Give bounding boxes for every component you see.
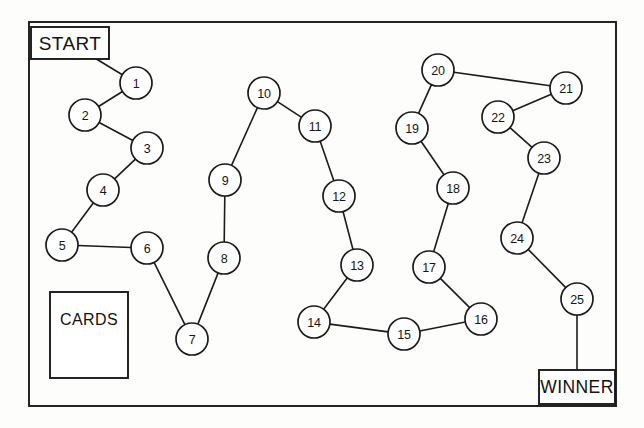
path-segment bbox=[522, 173, 539, 223]
board-space-3[interactable]: 3 bbox=[131, 132, 163, 164]
path-segment bbox=[72, 203, 94, 232]
space-number: 18 bbox=[446, 182, 460, 196]
path-segment bbox=[510, 128, 532, 148]
space-number: 2 bbox=[82, 109, 89, 123]
space-number: 1 bbox=[133, 77, 140, 91]
cards-panel[interactable]: CARDS bbox=[50, 292, 128, 378]
board-space-23[interactable]: 23 bbox=[528, 142, 560, 174]
space-number: 5 bbox=[59, 239, 66, 253]
board-space-8[interactable]: 8 bbox=[208, 242, 240, 274]
board-space-25[interactable]: 25 bbox=[561, 283, 593, 315]
path-segment bbox=[419, 85, 432, 114]
board-space-18[interactable]: 18 bbox=[437, 172, 469, 204]
start-panel-label: START bbox=[39, 33, 102, 54]
board-space-21[interactable]: 21 bbox=[550, 72, 582, 104]
board-space-1[interactable]: 1 bbox=[120, 67, 152, 99]
path-segment bbox=[343, 211, 353, 249]
winner-panel[interactable]: WINNER bbox=[539, 370, 615, 404]
path-segment bbox=[320, 141, 334, 181]
path-segment bbox=[198, 273, 218, 324]
space-number: 16 bbox=[474, 313, 488, 327]
path-segment bbox=[154, 262, 185, 324]
board-space-24[interactable]: 24 bbox=[501, 222, 533, 254]
space-number: 21 bbox=[559, 82, 573, 96]
space-number: 10 bbox=[257, 87, 271, 101]
space-number: 9 bbox=[222, 174, 229, 188]
board-canvas: STARTWINNERCARDS 12345678910111213141516… bbox=[0, 0, 644, 428]
board-space-22[interactable]: 22 bbox=[482, 101, 514, 133]
space-number: 7 bbox=[189, 333, 196, 347]
board-space-6[interactable]: 6 bbox=[131, 232, 163, 264]
path-segment bbox=[528, 249, 566, 287]
space-number: 19 bbox=[405, 122, 419, 136]
path-segment bbox=[99, 92, 123, 107]
board-space-20[interactable]: 20 bbox=[422, 54, 454, 86]
path-segment bbox=[224, 196, 225, 242]
space-number: 23 bbox=[537, 152, 551, 166]
space-number: 20 bbox=[431, 64, 445, 78]
path-segment bbox=[440, 278, 469, 307]
board-space-11[interactable]: 11 bbox=[299, 110, 331, 142]
space-number: 13 bbox=[350, 259, 364, 273]
space-number: 12 bbox=[332, 190, 346, 204]
board-space-10[interactable]: 10 bbox=[248, 77, 280, 109]
board-space-2[interactable]: 2 bbox=[69, 99, 101, 131]
board-space-7[interactable]: 7 bbox=[176, 323, 208, 355]
space-number: 3 bbox=[144, 142, 151, 156]
board-space-17[interactable]: 17 bbox=[413, 251, 445, 283]
path-segment bbox=[513, 94, 552, 110]
space-number: 8 bbox=[221, 252, 228, 266]
path-segment bbox=[434, 203, 449, 251]
board-space-14[interactable]: 14 bbox=[298, 306, 330, 338]
path-segment bbox=[420, 322, 466, 331]
board-panels: STARTWINNERCARDS bbox=[31, 27, 615, 404]
path-segment bbox=[78, 246, 131, 248]
path-segment bbox=[96, 59, 122, 75]
board-space-15[interactable]: 15 bbox=[388, 318, 420, 350]
start-panel[interactable]: START bbox=[31, 27, 109, 59]
board-space-13[interactable]: 13 bbox=[341, 249, 373, 281]
board-space-5[interactable]: 5 bbox=[46, 229, 78, 261]
space-number: 25 bbox=[570, 293, 584, 307]
game-board: STARTWINNERCARDS 12345678910111213141516… bbox=[0, 0, 644, 428]
winner-panel-label: WINNER bbox=[540, 377, 613, 397]
board-space-9[interactable]: 9 bbox=[209, 164, 241, 196]
cards-panel-label: CARDS bbox=[60, 311, 118, 328]
path-segment bbox=[277, 102, 301, 118]
space-number: 6 bbox=[144, 242, 151, 256]
path-segment bbox=[421, 141, 444, 175]
board-space-16[interactable]: 16 bbox=[465, 303, 497, 335]
board-space-12[interactable]: 12 bbox=[323, 180, 355, 212]
space-number: 15 bbox=[397, 328, 411, 342]
path-segment bbox=[330, 324, 388, 332]
cards-panel-box bbox=[50, 292, 128, 378]
path-segment bbox=[454, 72, 550, 86]
space-number: 4 bbox=[100, 184, 107, 198]
space-number: 24 bbox=[510, 232, 524, 246]
space-number: 11 bbox=[309, 120, 322, 134]
path-segment bbox=[232, 108, 258, 166]
space-number: 22 bbox=[491, 111, 505, 125]
path-segment bbox=[99, 123, 133, 141]
board-space-19[interactable]: 19 bbox=[396, 112, 428, 144]
path-segment bbox=[115, 159, 136, 179]
space-number: 14 bbox=[307, 316, 321, 330]
space-number: 17 bbox=[422, 261, 436, 275]
board-space-4[interactable]: 4 bbox=[87, 174, 119, 206]
path-segment bbox=[324, 278, 348, 309]
